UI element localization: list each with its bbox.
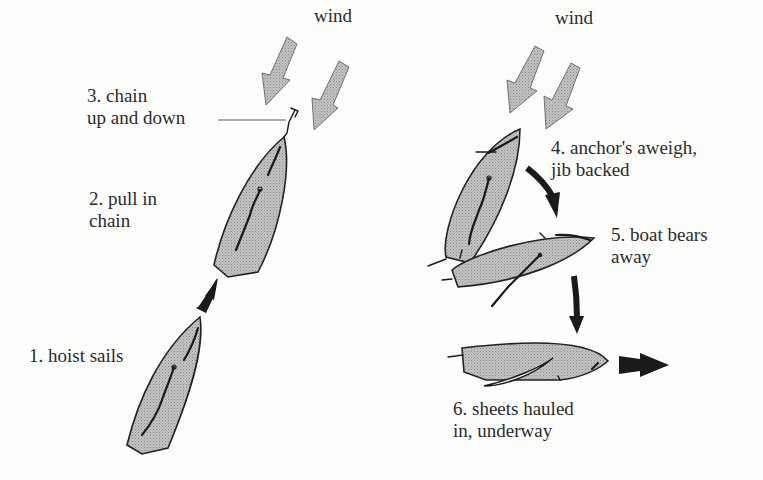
wind-arrow-icon [507,46,544,113]
sailboat-icon [214,137,286,277]
step-2-label: 2. pull in chain [89,188,157,232]
direction-arrow-icon [569,276,584,334]
wind-arrow-icon [312,61,349,130]
step-3-line1: 3. chain [87,85,185,107]
anchor-icon [284,108,298,137]
step-2-line2: chain [89,210,157,232]
step-5-line2: away [611,246,708,268]
sailboat-icon [448,343,608,386]
step-4-line2: jib backed [551,159,697,181]
wind-label-left: wind [314,5,352,27]
step-4-line1: 4. anchor's aweigh, [551,137,697,159]
step-6-line1: 6. sheets hauled [453,398,574,420]
direction-arrow-icon [196,278,218,313]
step-4-label: 4. anchor's aweigh, jib backed [551,137,697,181]
direction-arrow-icon [619,353,669,377]
wind-arrow-icon [262,37,297,105]
step-5-line1: 5. boat bears [611,224,708,246]
wind-arrow-icon [544,63,580,129]
step-3-line2: up and down [87,107,185,129]
step-6-label: 6. sheets hauled in, underway [453,398,574,442]
sailboat-icon [428,129,520,266]
step-2-line1: 2. pull in [89,188,157,210]
wind-label-right: wind [555,7,593,29]
step-3-label: 3. chain up and down [87,85,185,129]
step-1-label: 1. hoist sails [29,345,123,367]
step-6-line2: in, underway [453,420,574,442]
sailboat-icon [127,317,201,454]
step-5-label: 5. boat bears away [611,224,708,268]
